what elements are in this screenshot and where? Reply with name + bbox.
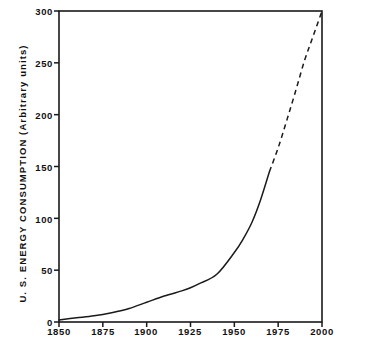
series-line-historical	[59, 172, 269, 320]
series-line-projected	[269, 11, 322, 172]
plot-frame	[59, 11, 322, 322]
plot-canvas	[0, 0, 377, 359]
energy-consumption-chart: U. S. ENERGY CONSUMPTION (Arbitrary unit…	[0, 0, 377, 359]
